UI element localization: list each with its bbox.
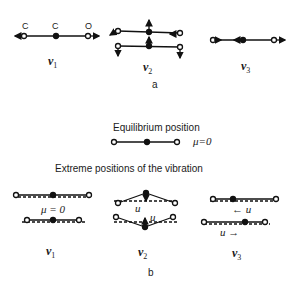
- v1-mu-label: μ = 0: [41, 203, 65, 215]
- mode-label-a-v3: v3: [241, 59, 250, 75]
- mode-a-v3: [211, 38, 286, 43]
- v3-u-bottom: u →: [220, 226, 239, 238]
- atom-label-o: O: [85, 21, 92, 31]
- equilibrium-mu: μ=0: [193, 135, 211, 147]
- vibration-diagram: [0, 0, 297, 283]
- caption-b: b: [148, 267, 154, 278]
- mode-label-b-v1: v1: [46, 244, 55, 260]
- v3-u-top: ← u: [232, 203, 251, 215]
- extreme-title: Extreme positions of the vibration: [55, 163, 203, 174]
- caption-a: a: [152, 79, 158, 90]
- atom-label-c2: C: [52, 21, 59, 31]
- mode-a-v2: [110, 20, 183, 58]
- mode-label-b-v3: v3: [232, 246, 241, 262]
- mode-a-v1: [15, 34, 99, 39]
- equilibrium-title: Equilibrium position: [113, 122, 200, 133]
- v2-u-bottom: u: [150, 211, 156, 223]
- equilibrium-molecule: [112, 140, 180, 145]
- mode-label-b-v2: v2: [138, 245, 147, 261]
- atom-label-c1: C: [22, 21, 29, 31]
- mode-label-a-v1: v1: [48, 54, 57, 70]
- mode-b-v2: [114, 191, 179, 230]
- mode-label-a-v2: v2: [143, 60, 152, 76]
- v2-u-top: u: [135, 202, 141, 214]
